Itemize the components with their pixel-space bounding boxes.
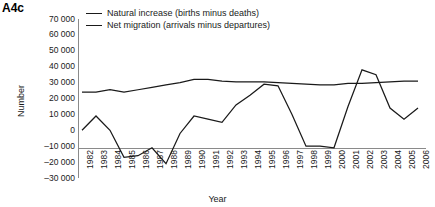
- x-axis-label: Year: [0, 194, 435, 204]
- x-axis-tick-label: 1987: [156, 150, 165, 192]
- x-axis-tick-label: 1994: [254, 150, 263, 192]
- x-axis-tick-label: 1991: [212, 150, 221, 192]
- x-axis-ticks: 1982198319841985198619871988198919901991…: [78, 150, 426, 194]
- y-axis-tick-label: 40 000: [20, 62, 75, 71]
- legend-line-swatch-natural-increase: [86, 13, 102, 14]
- y-axis-tick-label: 50 000: [20, 46, 75, 55]
- y-axis-tick-label: 10 000: [20, 110, 75, 119]
- y-axis-tick-label: 70 000: [20, 15, 75, 24]
- y-axis-tick-label: 0: [20, 126, 75, 135]
- x-axis-tick-label: 1998: [310, 150, 319, 192]
- x-axis-tick-label: 1992: [226, 150, 235, 192]
- x-axis-tick-label: 2000: [338, 150, 347, 192]
- y-axis-tick-label: –20 000: [20, 158, 75, 167]
- y-axis-tick-label: –10 000: [20, 142, 75, 151]
- legend-item-natural-increase: Natural increase (births minus deaths): [86, 8, 270, 20]
- x-axis-tick-label: 1985: [128, 150, 137, 192]
- y-axis-tick-label: 30 000: [20, 78, 75, 87]
- x-axis-tick-label: 1989: [184, 150, 193, 192]
- x-axis-tick-label: 2005: [408, 150, 417, 192]
- x-axis-tick-label: 1993: [240, 150, 249, 192]
- y-axis-tick-label: –30 000: [20, 174, 75, 183]
- x-axis-tick-label: 1983: [100, 150, 109, 192]
- x-axis-tick-label: 2001: [352, 150, 361, 192]
- x-axis-tick-label: 2004: [394, 150, 403, 192]
- x-axis-tick-label: 1986: [142, 150, 151, 192]
- y-axis-ticks: 70 00060 00050 00040 00030 00020 00010 0…: [20, 0, 75, 207]
- x-axis-tick-label: 1982: [86, 150, 95, 192]
- x-axis-tick-label: 1995: [268, 150, 277, 192]
- x-axis-tick-label: 2003: [380, 150, 389, 192]
- x-axis-tick-label: 2002: [366, 150, 375, 192]
- x-axis-tick-label: 2006: [422, 150, 431, 192]
- x-axis-tick-label: 1988: [170, 150, 179, 192]
- series-line-natural-increase: [82, 79, 418, 92]
- y-axis-tick-label: 60 000: [20, 30, 75, 39]
- chart-figure: A4c Natural increase (births minus death…: [0, 0, 435, 207]
- x-axis-tick-label: 1984: [114, 150, 123, 192]
- x-axis-tick-label: 1996: [282, 150, 291, 192]
- x-axis-tick-label: 1999: [324, 150, 333, 192]
- y-axis-tick-label: 20 000: [20, 94, 75, 103]
- x-axis-tick-label: 1990: [198, 150, 207, 192]
- x-axis-tick-label: 1997: [296, 150, 305, 192]
- legend-label-natural-increase: Natural increase (births minus deaths): [107, 8, 259, 20]
